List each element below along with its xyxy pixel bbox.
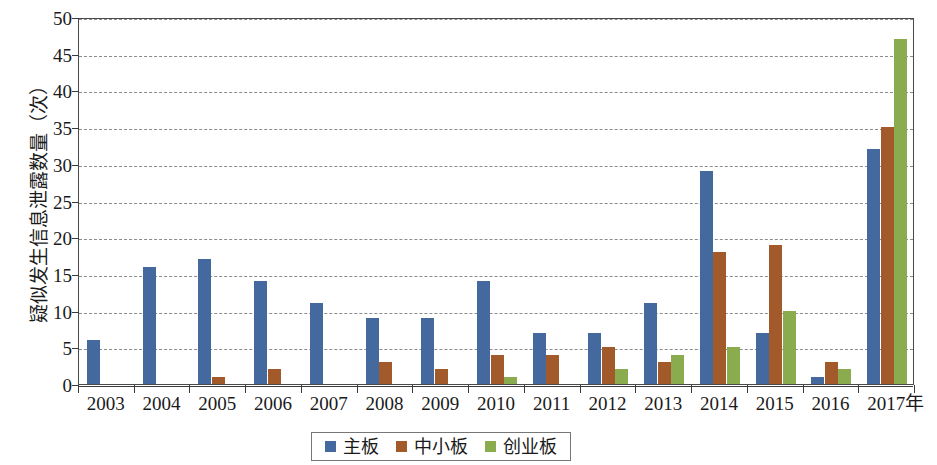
x-axis-tick-mark — [134, 385, 135, 393]
x-axis-tick-mark — [803, 385, 804, 393]
y-axis-tick-mark — [72, 238, 79, 239]
y-axis-tick-mark — [72, 165, 79, 166]
legend-swatch-icon — [485, 441, 496, 452]
y-axis-tick-mark — [72, 312, 79, 313]
x-axis-tick-mark — [357, 385, 358, 393]
x-axis-tick-mark — [245, 385, 246, 393]
y-axis-tick-label: 5 — [38, 339, 72, 358]
y-axis-tick-label: 15 — [38, 265, 72, 284]
legend-item: 主板 — [325, 438, 379, 456]
x-axis-tick-label: 2005 — [185, 393, 249, 416]
legend-swatch-icon — [325, 441, 336, 452]
bar — [867, 149, 880, 384]
plot-area — [78, 18, 914, 385]
y-axis-tick-mark — [72, 275, 79, 276]
x-axis-tick-mark — [468, 385, 469, 393]
x-axis-tick-mark — [691, 385, 692, 393]
y-axis-tick-mark — [72, 348, 79, 349]
bar — [894, 39, 907, 384]
x-axis-tick-label: 2006 — [241, 393, 305, 416]
bar-group — [79, 19, 915, 384]
x-axis-tick-label: 2004 — [130, 393, 194, 416]
x-axis-tick-mark — [301, 385, 302, 393]
y-axis-tick-label: 20 — [38, 229, 72, 248]
x-axis-tick-mark — [858, 385, 859, 393]
x-axis-tick-label: 2014 — [687, 393, 751, 416]
y-axis-tick-label: 50 — [38, 9, 72, 28]
y-axis-tick-mark — [72, 202, 79, 203]
x-axis-tick-label: 2015 — [743, 393, 807, 416]
x-axis-unit-label: 年 — [905, 393, 924, 416]
x-axis-tick-mark — [412, 385, 413, 393]
x-axis-tick-mark — [189, 385, 190, 393]
x-axis-tick-mark — [524, 385, 525, 393]
y-axis-tick-label: 0 — [38, 376, 72, 395]
x-axis-tick-label: 2012 — [575, 393, 639, 416]
legend-label: 创业板 — [503, 438, 557, 456]
chart-legend: 主板中小板创业板 — [311, 432, 571, 461]
x-axis-tick-label: 2011 — [520, 393, 584, 416]
x-axis-tick-label: 2008 — [353, 393, 417, 416]
y-axis-tick-label: 10 — [38, 302, 72, 321]
x-axis-tick-label: 2016 — [798, 393, 862, 416]
legend-label: 中小板 — [414, 438, 468, 456]
x-axis-tick-label: 2007 — [297, 393, 361, 416]
y-axis-tick-labels: 05101520253035404550 — [36, 18, 72, 385]
y-axis-tick-label: 35 — [38, 119, 72, 138]
x-axis-tick-label: 2009 — [408, 393, 472, 416]
x-axis-tick-mark — [635, 385, 636, 393]
legend-item: 创业板 — [485, 438, 557, 456]
y-axis-tick-label: 30 — [38, 155, 72, 174]
y-axis-tick-mark — [72, 18, 79, 19]
x-axis-tick-mark — [78, 385, 79, 393]
x-axis-tick-label: 2010 — [464, 393, 528, 416]
x-axis-tick-label: 2003 — [74, 393, 138, 416]
legend-item: 中小板 — [396, 438, 468, 456]
y-axis-tick-mark — [72, 128, 79, 129]
x-axis-tick-mark — [580, 385, 581, 393]
legend-swatch-icon — [396, 441, 407, 452]
bar — [881, 127, 894, 384]
bar-chart: 疑似发生信息泄露数量（次） 05101520253035404550 20032… — [0, 0, 937, 465]
gridline — [79, 386, 913, 387]
x-axis-tick-mark — [747, 385, 748, 393]
x-axis-tick-mark — [914, 385, 915, 393]
y-axis-tick-label: 40 — [38, 82, 72, 101]
bars-layer — [79, 19, 913, 384]
x-axis-tick-label: 2013 — [631, 393, 695, 416]
legend-label: 主板 — [343, 438, 379, 456]
y-axis-tick-label: 25 — [38, 192, 72, 211]
y-axis-tick-mark — [72, 91, 79, 92]
y-axis-tick-mark — [72, 55, 79, 56]
y-axis-tick-label: 45 — [38, 45, 72, 64]
y-axis-tick-mark — [72, 385, 79, 386]
